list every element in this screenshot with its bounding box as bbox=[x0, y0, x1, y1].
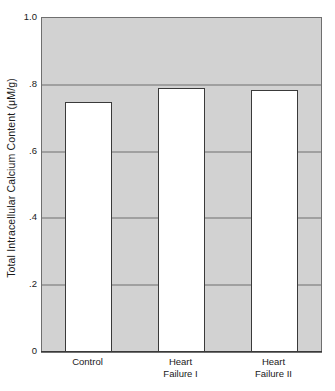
x-axis-tick-labels: ControlHeartFailure IHeartFailure II bbox=[41, 356, 320, 390]
x-axis-tick-label-line: Heart bbox=[163, 356, 197, 368]
x-axis-tick-label-line: Failure II bbox=[255, 368, 292, 380]
y-axis-tick-label: .4 bbox=[29, 213, 37, 223]
x-axis-tick-label-line: Control bbox=[72, 356, 103, 368]
plot-area bbox=[41, 17, 322, 353]
y-axis-tick-label: .2 bbox=[29, 279, 37, 289]
gridline bbox=[42, 84, 321, 85]
y-axis-label-text: Total Intracellular Calcium Content (μM/… bbox=[5, 78, 17, 278]
bar-chart-figure: Total Intracellular Calcium Content (μM/… bbox=[0, 0, 335, 391]
y-axis-tick-labels: 0.2.4.6.81.0 bbox=[20, 0, 39, 391]
x-axis-line bbox=[41, 351, 322, 352]
y-axis-tick-label: .8 bbox=[29, 79, 37, 89]
bar bbox=[158, 88, 205, 352]
x-axis-tick-label: HeartFailure II bbox=[255, 356, 292, 379]
x-axis-tick-label: Control bbox=[72, 356, 103, 368]
y-axis-label: Total Intracellular Calcium Content (μM/… bbox=[0, 0, 22, 355]
y-axis-tick-label: .6 bbox=[29, 146, 37, 156]
bar bbox=[65, 102, 112, 353]
x-axis-tick-label-line: Failure I bbox=[163, 368, 197, 380]
y-axis-tick-label: 1.0 bbox=[24, 12, 37, 22]
bar bbox=[251, 90, 298, 352]
y-axis-tick-label: 0 bbox=[32, 346, 37, 356]
x-axis-tick-label-line: Heart bbox=[255, 356, 292, 368]
x-axis-tick-label: HeartFailure I bbox=[163, 356, 197, 379]
